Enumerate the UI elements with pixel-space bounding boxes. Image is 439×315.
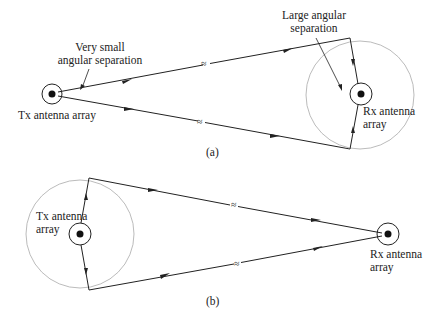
label-line: array (363, 118, 415, 131)
annotation-line: angular separation (55, 54, 145, 67)
rx-antenna-dot (358, 91, 365, 98)
tx-label-a: Tx antenna array (18, 109, 96, 122)
caption-b: (b) (206, 295, 219, 308)
label-line: Rx antenna (363, 105, 415, 118)
label-line: Tx antenna (36, 210, 87, 223)
label-line: Rx antenna (370, 248, 422, 261)
rx-label-a: Rx antenna array (363, 105, 415, 131)
break-symbol: ≈ (201, 57, 207, 70)
break-symbol: ≈ (197, 115, 203, 128)
tx-label-b: Tx antenna array (36, 210, 87, 236)
rx-antenna-dot-b (385, 231, 392, 238)
label-line: array (36, 223, 87, 236)
rx-label-b: Rx antenna array (370, 248, 422, 274)
break-symbol: ≈ (231, 198, 237, 211)
caption-a: (a) (206, 146, 219, 159)
label-line: array (370, 261, 422, 274)
annotation-line: separation (274, 22, 354, 35)
annotation-line: Large angular (274, 9, 354, 22)
break-symbol: ≈ (234, 257, 240, 270)
lower-path-a (58, 96, 350, 149)
tx-antenna-dot (49, 91, 56, 98)
annotation-large-separation: Large angular separation (274, 9, 354, 35)
annotation-small-separation: Very small angular separation (55, 41, 145, 67)
annotation-line: Very small (55, 41, 145, 54)
